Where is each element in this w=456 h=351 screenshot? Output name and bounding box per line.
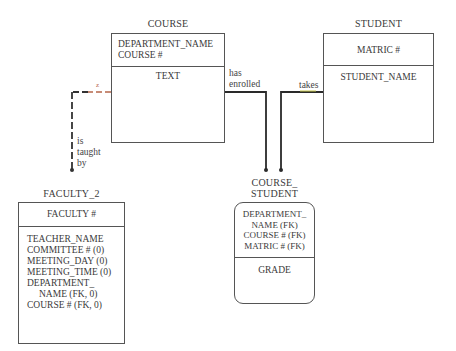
course-entity[interactable]: DEPARTMENT_NAME COURSE # TEXT — [111, 33, 225, 143]
course-student-entity-title: COURSE_ STUDENT — [234, 177, 315, 199]
course-student-key-department: DEPARTMENT_ — [235, 209, 314, 220]
faculty-attr-teacher-name: TEACHER_NAME — [27, 234, 124, 245]
course-student-key-name: NAME (FK) — [235, 220, 314, 231]
faculty-attribute-section: TEACHER_NAME COMMITTEE # (0) MEETING_DAY… — [19, 234, 124, 311]
course-student-attribute-section: GRADE — [235, 265, 314, 276]
faculty-divider — [19, 226, 124, 227]
faculty-attr-committee: COMMITTEE # (0) — [27, 245, 124, 256]
faculty-attr-course: COURSE # (FK, 0) — [27, 300, 124, 311]
student-key-section: MATRIC # — [324, 45, 433, 56]
faculty-key-section: FACULTY # — [19, 209, 124, 220]
course-student-key-matric: MATRIC # (FK) — [235, 241, 314, 252]
course-student-key-section: DEPARTMENT_ NAME (FK) COURSE # (FK) MATR… — [235, 209, 314, 251]
faculty-attr-department-name: NAME (FK, 0) — [27, 289, 124, 300]
faculty-entity[interactable]: FACULTY # TEACHER_NAME COMMITTEE # (0) M… — [18, 202, 125, 344]
course-key-course-number: COURSE # — [118, 50, 224, 61]
course-student-divider — [235, 257, 314, 258]
student-attribute-section: STUDENT_NAME — [324, 72, 433, 83]
course-attribute-section: TEXT — [112, 71, 224, 82]
faculty-attr-meeting-time: MEETING_TIME (0) — [27, 267, 124, 278]
has-enrolled-connector — [225, 92, 268, 172]
student-entity-title: STUDENT — [323, 18, 434, 29]
faculty-attr-meeting-day: MEETING_DAY (0) — [27, 256, 124, 267]
course-entity-title: COURSE — [111, 18, 225, 29]
course-attr-text: TEXT — [112, 71, 224, 82]
student-entity[interactable]: MATRIC # STUDENT_NAME — [323, 33, 434, 143]
faculty-key-number: FACULTY # — [19, 209, 124, 220]
student-attr-name: STUDENT_NAME — [324, 72, 433, 83]
course-student-entity[interactable]: DEPARTMENT_ NAME (FK) COURSE # (FK) MATR… — [234, 202, 315, 304]
faculty-entity-title: FACULTY_2 — [18, 188, 125, 199]
course-key-section: DEPARTMENT_NAME COURSE # — [112, 39, 224, 61]
course-student-key-course: COURSE # (FK) — [235, 230, 314, 241]
student-divider — [324, 65, 433, 66]
takes-connector — [279, 91, 323, 172]
course-student-attr-grade: GRADE — [235, 265, 314, 276]
cardinality-marker: z — [96, 80, 99, 91]
faculty-attr-department: DEPARTMENT_ — [27, 278, 124, 289]
has-enrolled-label: has enrolled — [229, 68, 260, 90]
course-key-department-name: DEPARTMENT_NAME — [118, 39, 224, 50]
is-taught-by-label: is taught by — [77, 136, 101, 169]
course-divider — [112, 66, 224, 67]
student-key-matric-number: MATRIC # — [324, 45, 433, 56]
takes-label: takes — [299, 80, 319, 91]
